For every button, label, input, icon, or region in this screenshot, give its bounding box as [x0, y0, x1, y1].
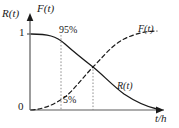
annotation-5-percent: 5% [63, 95, 76, 105]
curve-failure-F [31, 31, 157, 110]
x-axis-label: t/h [155, 113, 167, 124]
chart-canvas [0, 0, 179, 128]
y-tick-label-zero: 0 [18, 101, 24, 112]
reliability-failure-chart: R(t) F(t) t/h 1 0 95% 5% F(t) R(t) [0, 0, 179, 128]
curve-label-failure: F(t) [138, 24, 154, 34]
y-axis-label-reliability: R(t) [2, 8, 19, 19]
y-tick-label-one: 1 [19, 27, 25, 38]
curve-label-reliability: R(t) [117, 81, 133, 91]
annotation-95-percent: 95% [59, 25, 77, 35]
y-axis-label-failure: F(t) [37, 3, 54, 14]
y-axis-arrowhead [27, 13, 34, 21]
curve-reliability-R [31, 34, 157, 109]
